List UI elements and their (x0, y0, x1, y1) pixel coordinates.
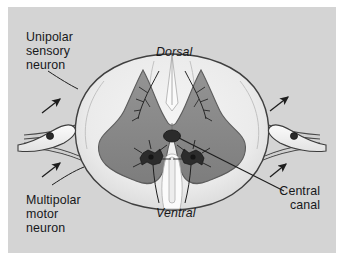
figure-plate: Unipolar sensory neuron Multipolar motor… (8, 7, 336, 253)
central-canal (164, 130, 181, 142)
leader-line-unipolar (48, 71, 78, 89)
label-ventral: Ventral (156, 206, 196, 220)
figure-root: Unipolar sensory neuron Multipolar motor… (0, 0, 344, 262)
dorsal-root-ganglion-left (18, 125, 76, 152)
label-multipolar-motor-neuron: Multipolar motor neuron (26, 193, 81, 236)
dorsal-root-ganglion-right (268, 125, 326, 152)
ventral-median-fissure (162, 154, 182, 209)
leader-line-multipolar (52, 167, 84, 185)
left-motor-arrow-up (42, 163, 60, 177)
label-central-canal: Central canal (279, 184, 320, 212)
label-dorsal: Dorsal (156, 45, 192, 59)
right-motor-arrow-up (270, 164, 286, 177)
left-sensory-arrow-up (42, 99, 60, 113)
label-unipolar-sensory-neuron: Unipolar sensory neuron (26, 30, 73, 73)
right-sensory-arrow-up (270, 97, 288, 111)
